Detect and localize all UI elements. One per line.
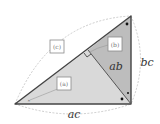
side-label-ac: ac bbox=[68, 108, 81, 121]
side-label-bc: bc bbox=[140, 56, 153, 69]
angle-cross-left: × bbox=[28, 98, 31, 103]
label-box-a: (a) bbox=[57, 77, 71, 90]
arc-bc bbox=[131, 16, 141, 104]
label-b-text: (b) bbox=[111, 41, 120, 48]
label-a-text: (a) bbox=[60, 80, 68, 87]
angle-dot-right bbox=[127, 92, 129, 94]
triangle-diagram: × (c) (b) (a) ab bc ac bbox=[0, 0, 160, 124]
label-box-c: (c) bbox=[50, 40, 64, 53]
angle-dot-bottom bbox=[121, 98, 124, 101]
angle-dot-top bbox=[126, 23, 129, 26]
side-label-ab: ab bbox=[109, 60, 123, 73]
label-c-text: (c) bbox=[53, 43, 61, 50]
label-box-b: (b) bbox=[108, 37, 122, 51]
